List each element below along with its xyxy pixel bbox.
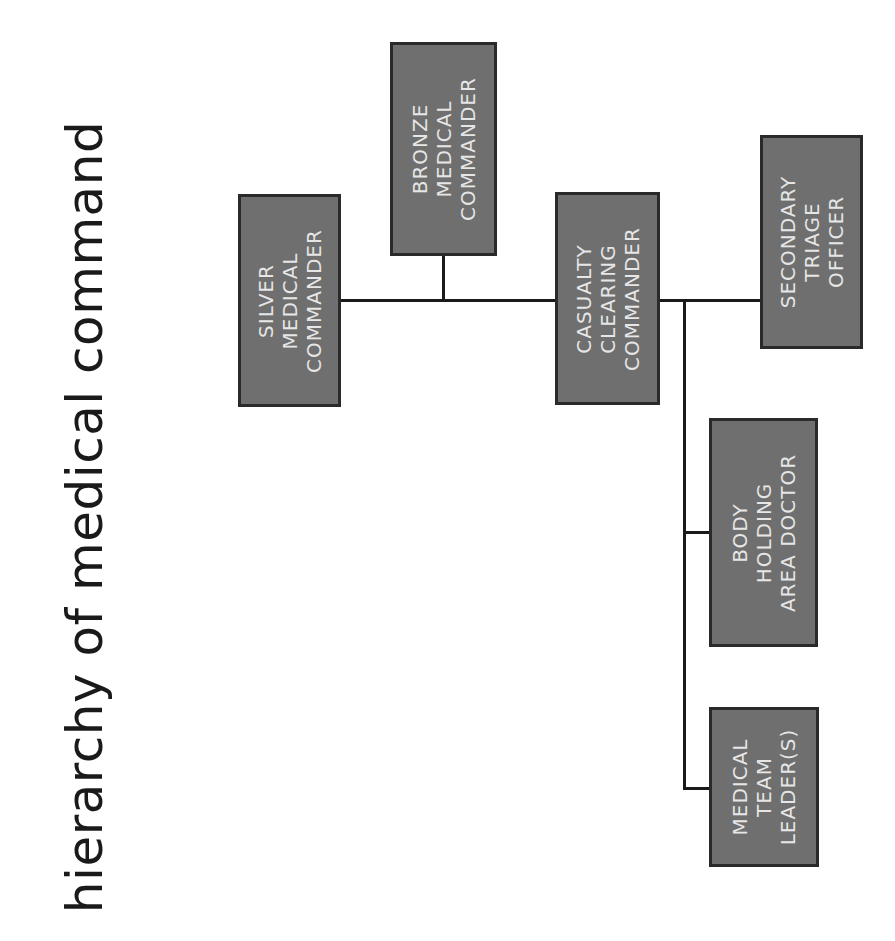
node-label: BRONZE MEDICAL COMMANDER [408, 77, 480, 221]
node-medical-team-leaders: MEDICAL TEAM LEADER(S) [709, 707, 819, 867]
node-casualty-clearing-commander: CASUALTY CLEARING COMMANDER [555, 192, 660, 405]
connector-to-team [683, 787, 710, 790]
connector-bronze-down [442, 255, 445, 301]
connector-to-body [683, 531, 710, 534]
node-label: CASUALTY CLEARING COMMANDER [572, 227, 644, 371]
node-label: SILVER MEDICAL COMMANDER [254, 229, 326, 373]
connector-silver-casualty [340, 299, 556, 302]
node-label: MEDICAL TEAM LEADER(S) [728, 729, 800, 846]
node-label: SECONDARY TRIAGE OFFICER [776, 176, 848, 309]
node-secondary-triage-officer: SECONDARY TRIAGE OFFICER [760, 135, 863, 349]
node-label: BODY HOLDING AREA DOCTOR [728, 453, 800, 611]
node-body-holding-area-doctor: BODY HOLDING AREA DOCTOR [709, 418, 818, 647]
node-silver-medical-commander: SILVER MEDICAL COMMANDER [238, 194, 341, 407]
diagram-title: hierarchy of medical command [56, 121, 114, 913]
node-bronze-medical-commander: BRONZE MEDICAL COMMANDER [390, 42, 497, 256]
connector-casualty-down [683, 299, 686, 790]
connector-casualty-secondary [659, 299, 761, 302]
